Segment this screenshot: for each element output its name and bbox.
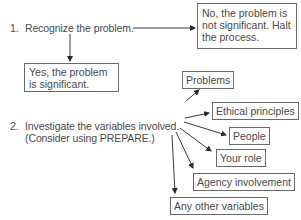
step2-number: 2. — [10, 120, 19, 132]
step1-number: 1. — [10, 22, 19, 34]
variable-your-role-box: Your role — [216, 149, 266, 167]
no-outcome-box: No, the problem is not significant. Halt… — [197, 3, 297, 49]
yes-outcome-box: Yes, the problem is significant. — [24, 63, 119, 92]
variable-any-other-box: Any other variables — [170, 197, 268, 215]
variable-people-box: People — [229, 127, 270, 145]
variable-ethical-principles-box: Ethical principles — [212, 102, 299, 120]
step2-note: (Consider using PREPARE.) — [25, 132, 155, 144]
variable-problems-box: Problems — [182, 71, 234, 89]
step2-label: Investigate the variables involved. — [25, 120, 179, 132]
variable-agency-involvement-box: Agency involvement — [193, 173, 295, 191]
step1-label: Recognize the problem. — [25, 22, 134, 34]
